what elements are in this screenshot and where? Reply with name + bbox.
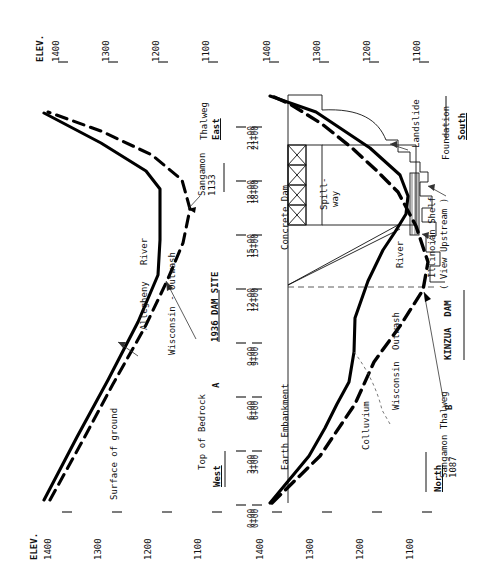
right-elev-tick-1400-bottom: 1400 [256,538,265,560]
left-label-west: West [213,465,222,487]
left-elev-tick-1200-bottom: 1200 [144,538,153,560]
right-label-river: River [396,241,405,268]
right-landslide-leader [390,141,408,150]
right-elev-tick-1300: 1300 [313,40,322,62]
left-label-top-of-bedrock: Top of Bedrock [198,394,207,470]
right-elev-tick-1400: 1400 [263,40,272,62]
left-elev-tick-1400-bottom: 1400 [44,538,53,560]
right-station-18: 18+00 [252,180,260,204]
figure-canvas: ELEV. 1400 1300 1200 1100 ELEV. 1400 130… [0,0,501,573]
right-panel-graphic [250,0,501,573]
left-label-section-id: A [212,383,221,388]
left-label-thalweg: Thalweg [200,102,209,140]
right-label-south: South [458,113,467,140]
right-station-9: 9+00 [252,347,260,366]
left-elev-tick-1300-bottom: 1300 [94,538,103,560]
left-station-ticks [236,127,246,505]
right-station-6: 6+00 [252,401,260,420]
right-elev-tick-1200-bottom: 1200 [356,538,365,560]
left-elev-axis-label-bottom: ELEV. [30,533,39,560]
right-label-concrete-dam: Concrete Dam [281,185,290,250]
right-label-view-upstream: ( View Upstream ) [440,198,449,290]
right-station-0: 0+00 [252,509,260,528]
right-label-wisconsin: Wisconsin [392,361,401,410]
right-label-foundation: Foundation [442,106,451,160]
left-label-east: East [212,118,221,140]
right-label-sangamon-elev: 1087 [449,456,458,478]
left-label-dam-site: 1936 DAM SITE [211,272,220,342]
right-label-landslide: Landslide [412,99,421,148]
right-station-21: 21+00 [252,126,260,150]
right-elev-tick-1200: 1200 [363,40,372,62]
right-label-earth-embankment: Earth Embankment [281,383,290,470]
right-label-title: KINZUA DAM [444,300,453,360]
landslide-outline [322,110,420,172]
left-label-sangamon-elev: 1133 [208,174,217,196]
right-surface-of-ground [270,96,408,503]
left-label-surface-of-ground: Surface of ground [110,408,119,500]
left-elev-tick-1300: 1300 [102,40,111,62]
right-label-illinoian-shelf: Illinoian Shelf [428,197,437,278]
spillway-bays [288,145,306,225]
left-elev-tick-1100-bottom: 1100 [194,538,203,560]
right-station-3: 3+00 [252,455,260,474]
spillway-block [288,145,416,225]
right-station-12: 12+00 [252,288,260,312]
right-elev-tick-1100: 1100 [413,40,422,62]
left-elev-tick-1400: 1400 [52,40,61,62]
right-label-outwash: Outwash [392,312,401,350]
left-elev-axis-label: ELEV. [36,35,45,62]
right-elev-tick-1300-bottom: 1300 [306,538,315,560]
intake-approach-lines [288,225,435,287]
right-foundation-leader [428,184,446,196]
right-station-15: 15+00 [252,234,260,258]
right-label-spillway-line1: Spill- [320,177,329,210]
right-label-colluvium: Colluvium [362,401,371,450]
right-label-spillway-line2: way [331,191,340,207]
left-label-wisconsin-outwash: Wisconsin - Outwash [168,252,177,355]
left-elev-tick-1200: 1200 [152,40,161,62]
left-elev-tick-1100: 1100 [202,40,211,62]
right-elev-tick-1100-bottom: 1100 [406,538,415,560]
left-label-river: Allegheny River [140,238,149,330]
right-sangamon-leader [424,292,443,398]
